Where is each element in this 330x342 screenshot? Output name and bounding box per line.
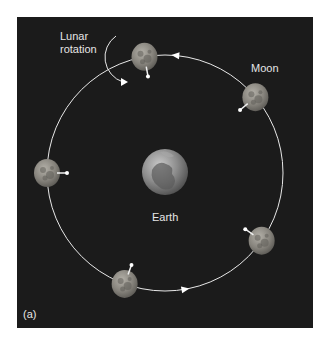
earth-label: Earth [152,211,178,224]
moon-4 [243,227,274,255]
lunar-rotation-arrowhead [121,78,128,86]
orbit-direction-arrow [181,286,189,293]
moon-5 [112,263,138,298]
earth [142,149,188,195]
lunar-rotation-arc [105,36,123,82]
orbit-diagram [0,0,330,342]
moon-3 [34,159,69,187]
lunar-rotation-label: Lunar rotation [60,30,97,56]
panel-label: (a) [23,308,36,321]
lunar-rotation-label-line1: Lunar [60,30,97,43]
moon-1 [132,43,158,79]
lunar-rotation-label-line2: rotation [60,43,97,56]
moon-label: Moon [251,62,279,75]
orbit-direction-arrow [171,52,179,59]
moon-2 [238,83,268,112]
